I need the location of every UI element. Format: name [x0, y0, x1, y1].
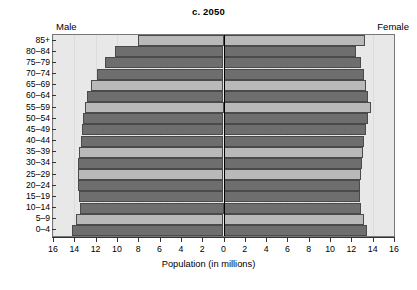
x-axis-title: Population (in millions)	[0, 259, 417, 269]
x-tick	[309, 237, 310, 242]
y-tick	[52, 185, 56, 186]
y-tick-label-45-49: 45–49	[4, 124, 50, 134]
y-tick-label-70-74: 70–74	[4, 68, 50, 78]
bar-male-70-74	[97, 69, 224, 80]
x-tick	[96, 237, 97, 242]
y-tick	[52, 174, 56, 175]
x-tick	[160, 237, 161, 242]
y-tick	[52, 151, 56, 152]
bar-female-35-39	[224, 147, 364, 158]
x-tick	[53, 237, 54, 242]
y-tick	[52, 118, 56, 119]
bar-female-10-14	[224, 203, 361, 214]
bar-female-25-29	[224, 169, 361, 180]
y-tick	[52, 129, 56, 130]
y-tick-label-50-54: 50–54	[4, 113, 50, 123]
bar-female-80-84	[224, 46, 356, 57]
gridline	[394, 35, 395, 236]
y-tick-label-80-84: 80–84	[4, 46, 50, 56]
y-tick-label-65-69: 65–69	[4, 79, 50, 89]
y-tick	[52, 218, 56, 219]
bar-male-65-69	[91, 80, 223, 91]
bar-male-30-34	[78, 158, 224, 169]
bar-female-55-59	[224, 102, 371, 113]
y-tick	[52, 62, 56, 63]
bar-female-60-64	[224, 91, 369, 102]
y-tick	[52, 162, 56, 163]
y-tick-label-15-19: 15–19	[4, 191, 50, 201]
y-tick	[52, 73, 56, 74]
y-tick	[52, 40, 56, 41]
chart-title: c. 2050	[0, 6, 417, 17]
y-tick-label-35-39: 35–39	[4, 146, 50, 156]
plot-area	[52, 34, 395, 237]
bar-female-65-69	[224, 80, 367, 91]
bar-female-50-54	[224, 113, 369, 124]
bar-female-5-9	[224, 214, 365, 225]
bar-male-5-9	[76, 214, 223, 225]
x-tick	[181, 237, 182, 242]
bar-female-75-79	[224, 57, 361, 68]
bar-male-10-14	[80, 203, 224, 214]
x-tick	[330, 237, 331, 242]
y-tick-label-25-29: 25–29	[4, 169, 50, 179]
y-tick-label-20-24: 20–24	[4, 180, 50, 190]
y-tick-label-40-44: 40–44	[4, 135, 50, 145]
bar-male-50-54	[83, 113, 224, 124]
y-tick	[52, 107, 56, 108]
bar-male-80-84	[115, 46, 224, 57]
x-tick	[117, 237, 118, 242]
y-tick-label-0-4: 0–4	[4, 224, 50, 234]
male-caption: Male	[56, 21, 77, 32]
x-tick	[74, 237, 75, 242]
zero-axis-line	[224, 35, 225, 236]
x-tick	[245, 237, 246, 242]
y-tick-label-55-59: 55–59	[4, 102, 50, 112]
x-tick	[224, 237, 225, 242]
x-tick	[373, 237, 374, 242]
y-tick-label-75-79: 75–79	[4, 57, 50, 67]
bar-male-55-59	[85, 102, 224, 113]
bar-male-35-39	[79, 147, 224, 158]
population-pyramid-chart: c. 2050 Male Female 85+80–8475–7970–7465…	[0, 0, 417, 290]
bar-male-25-29	[78, 169, 224, 180]
y-tick	[52, 196, 56, 197]
bar-female-70-74	[224, 69, 365, 80]
bar-female-45-49	[224, 124, 367, 135]
bar-male-75-79	[105, 57, 223, 68]
bar-male-60-64	[87, 91, 223, 102]
y-tick-label-30-34: 30–34	[4, 157, 50, 167]
y-tick	[52, 84, 56, 85]
x-tick	[138, 237, 139, 242]
y-tick	[52, 140, 56, 141]
x-tick	[351, 237, 352, 242]
y-tick	[52, 95, 56, 96]
y-tick-label-85+: 85+	[4, 35, 50, 45]
bar-male-15-19	[79, 191, 224, 202]
bar-male-0-4	[72, 225, 223, 236]
y-tick-label-5-9: 5–9	[4, 213, 50, 223]
y-tick-label-60-64: 60–64	[4, 90, 50, 100]
bar-female-15-19	[224, 191, 360, 202]
bar-female-85+	[224, 35, 366, 46]
x-tick	[287, 237, 288, 242]
bar-male-40-44	[81, 136, 224, 147]
bar-female-30-34	[224, 158, 363, 169]
female-caption: Female	[377, 21, 409, 32]
x-tick	[266, 237, 267, 242]
plot-inner	[53, 35, 394, 236]
y-tick	[52, 51, 56, 52]
bar-male-20-24	[78, 180, 224, 191]
bar-male-85+	[138, 35, 223, 46]
bar-female-40-44	[224, 136, 365, 147]
y-tick-label-10-14: 10–14	[4, 202, 50, 212]
bar-male-45-49	[82, 124, 224, 135]
y-tick	[52, 229, 56, 230]
y-tick	[52, 207, 56, 208]
bar-female-0-4	[224, 225, 368, 236]
x-tick	[394, 237, 395, 242]
y-axis-labels: 85+80–8475–7970–7465–6960–6455–5950–5445…	[0, 34, 50, 237]
x-tick	[202, 237, 203, 242]
bar-female-20-24	[224, 180, 360, 191]
x-tick-label: 16	[382, 244, 406, 254]
